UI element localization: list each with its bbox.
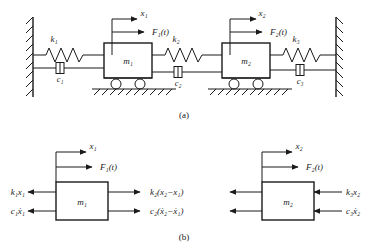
label-fbd-k3x2: k₃x₂ bbox=[346, 187, 360, 197]
spring-k2 bbox=[152, 48, 222, 62]
label-spring-k2: k₂ bbox=[172, 34, 179, 44]
label-fbd-mass-m1: m₁ bbox=[77, 197, 87, 207]
damper-c1 bbox=[33, 63, 104, 74]
label-fbd-c3x2dot: c₃ẋ₂ bbox=[346, 206, 360, 216]
label-fbd-F1: F₁(t) bbox=[99, 162, 117, 172]
spring-k1 bbox=[33, 48, 104, 62]
label-damper-c1: c₁ bbox=[57, 74, 64, 84]
spring-k3 bbox=[270, 48, 336, 62]
right-wall bbox=[336, 17, 343, 97]
label-fbd-k2-rel: k₂(x₂−x₁) bbox=[150, 187, 183, 197]
label-fbd-c2-rel: c₂(ẋ₂−ẋ₁) bbox=[150, 206, 183, 216]
label-fbd-c1x1dot: c₁ẋ₁ bbox=[11, 206, 25, 216]
label-mass-m1: m₁ bbox=[123, 56, 133, 66]
label-mass-m2: m₂ bbox=[241, 56, 251, 66]
label-damper-c2: c₂ bbox=[175, 78, 182, 88]
label-F2-a: F₂(t) bbox=[269, 27, 287, 37]
label-fbd-x1: x₁ bbox=[88, 141, 96, 151]
label-x1-a: x₁ bbox=[139, 8, 147, 18]
ground-left bbox=[92, 89, 176, 95]
left-wall bbox=[26, 17, 33, 97]
mechanical-system-diagram: k₁ c₁ m₁ x₁ F₁(t) k₂ c₂ m₂ x₂ F₂(t) k₃ c… bbox=[0, 0, 368, 250]
label-fbd-mass-m2: m₂ bbox=[283, 197, 293, 207]
label-x2-a: x₂ bbox=[257, 8, 265, 18]
label-spring-k3: k₃ bbox=[292, 34, 299, 44]
label-spring-k1: k₁ bbox=[50, 34, 57, 44]
ground-right bbox=[208, 89, 292, 95]
caption-b: (b) bbox=[179, 232, 190, 242]
label-F1-a: F₁(t) bbox=[151, 27, 169, 37]
label-fbd-F2: F₂(t) bbox=[305, 162, 323, 172]
label-fbd-x2: x₂ bbox=[294, 141, 302, 151]
label-damper-c3: c₃ bbox=[297, 76, 304, 86]
mass-m2 bbox=[222, 43, 270, 89]
damper-c3 bbox=[270, 65, 336, 76]
mass-m1 bbox=[104, 43, 152, 89]
figure-container: k₁ c₁ m₁ x₁ F₁(t) k₂ c₂ m₂ x₂ F₂(t) k₃ c… bbox=[0, 0, 368, 250]
damper-c2 bbox=[152, 67, 222, 78]
caption-a: (a) bbox=[179, 110, 189, 120]
label-fbd-k1x1: k₁x₁ bbox=[11, 187, 25, 197]
